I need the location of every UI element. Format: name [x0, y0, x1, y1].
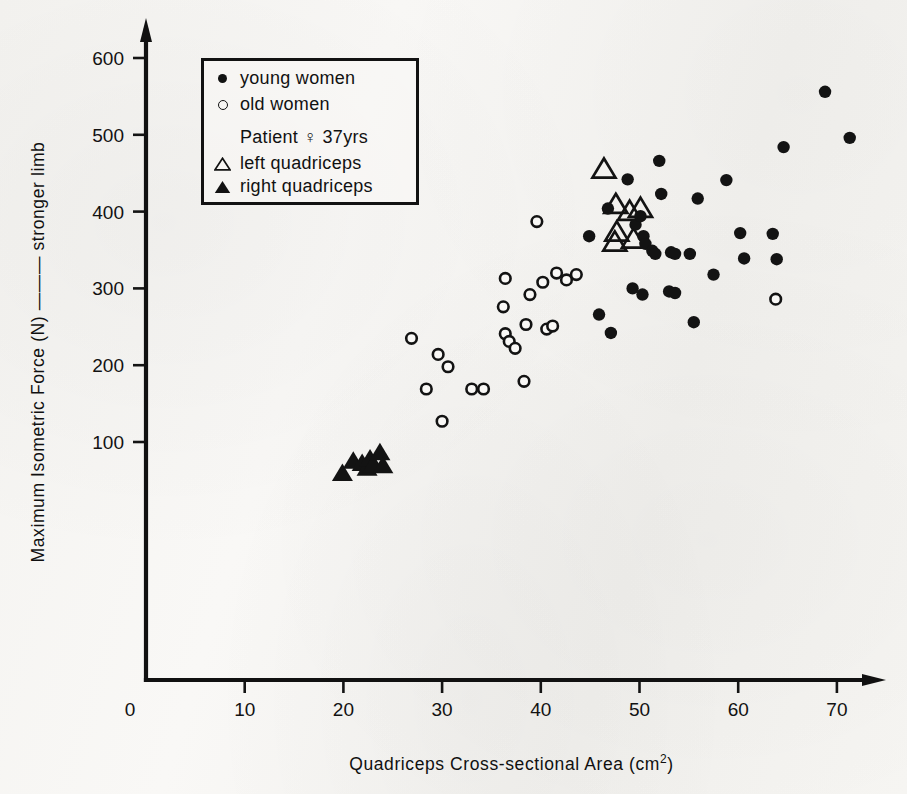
x-tick-label: 70: [826, 699, 847, 720]
legend-item-right-quadriceps: right quadriceps: [214, 176, 373, 197]
x-tick-label: 10: [234, 699, 255, 720]
y-tick-label: 200: [92, 355, 124, 376]
x-tick-label: 60: [728, 699, 749, 720]
data-point-young-women: [669, 287, 681, 299]
data-point-old-women: [500, 273, 511, 284]
legend-patient-heading: Patient ♀ 37yrs: [240, 127, 368, 148]
data-point-young-women: [720, 174, 732, 186]
data-point-right-quadriceps: [369, 443, 390, 461]
data-point-young-women: [819, 86, 831, 98]
data-point-old-women: [571, 269, 582, 280]
data-point-old-women: [537, 277, 548, 288]
data-point-young-women: [621, 173, 633, 185]
x-tick-label: 20: [333, 699, 354, 720]
x-axis-title: Quadriceps Cross-sectional Area (cm2): [349, 752, 674, 774]
data-point-young-women: [593, 308, 605, 320]
open-circle-icon: [214, 100, 240, 110]
y-tick-label: 500: [92, 125, 124, 146]
filled-circle-icon: [214, 74, 240, 83]
scatter-plot-figure: 010203040506070100200300400500600 Quadri…: [0, 0, 907, 794]
legend-patient-heading-text: Patient ♀ 37yrs: [240, 127, 368, 148]
data-point-young-women: [669, 248, 681, 260]
data-point-old-women: [466, 384, 477, 395]
data-point-young-women: [636, 288, 648, 300]
data-point-young-women: [634, 210, 646, 222]
data-point-old-women: [521, 319, 532, 330]
data-point-young-women: [649, 248, 661, 260]
legend-label-young-women: young women: [240, 68, 355, 89]
legend: young women old women Patient ♀ 37yrs le…: [201, 58, 419, 205]
data-point-old-women: [421, 384, 432, 395]
data-point-old-women: [443, 361, 454, 372]
data-point-old-women: [525, 289, 536, 300]
data-point-old-women: [519, 376, 530, 387]
data-point-young-women: [770, 253, 782, 265]
y-tick-label: 300: [92, 278, 124, 299]
filled-triangle-icon: [214, 180, 240, 194]
data-point-young-women: [684, 248, 696, 260]
data-point-old-women: [551, 268, 562, 279]
data-point-old-women: [478, 384, 489, 395]
x-tick-label: 0: [125, 699, 136, 720]
data-point-young-women: [653, 155, 665, 167]
data-point-young-women: [738, 252, 750, 264]
data-point-young-women: [707, 268, 719, 280]
legend-item-old-women: old women: [214, 94, 330, 115]
data-point-old-women: [547, 321, 558, 332]
legend-label-old-women: old women: [240, 94, 330, 115]
data-point-left-quadriceps: [605, 221, 628, 240]
y-axis-title: Maximum Isometric Force (N) ——— stronger…: [28, 142, 48, 563]
data-point-old-women: [498, 302, 509, 313]
data-point-old-women: [406, 333, 417, 344]
data-point-young-women: [777, 141, 789, 153]
plot-canvas: 010203040506070100200300400500600 Quadri…: [0, 0, 907, 794]
legend-label-right-quadriceps: right quadriceps: [240, 176, 373, 197]
data-point-old-women: [770, 294, 781, 305]
legend-item-left-quadriceps: left quadriceps: [214, 153, 362, 174]
data-point-old-women: [532, 216, 543, 227]
data-point-young-women: [602, 202, 614, 214]
y-tick-label: 100: [92, 432, 124, 453]
data-point-young-women: [583, 230, 595, 242]
legend-label-left-quadriceps: left quadriceps: [240, 153, 362, 174]
y-tick-label: 600: [92, 48, 124, 69]
data-point-young-women: [767, 228, 779, 240]
data-point-old-women: [510, 343, 521, 354]
data-point-young-women: [655, 188, 667, 200]
data-point-young-women: [605, 327, 617, 339]
x-axis-arrow: [862, 674, 886, 686]
x-tick-label: 50: [629, 699, 650, 720]
open-triangle-icon: [214, 157, 240, 171]
data-point-young-women: [688, 316, 700, 328]
y-tick-label: 400: [92, 202, 124, 223]
data-point-old-women: [437, 416, 448, 427]
data-point-young-women: [734, 227, 746, 239]
data-point-young-women: [692, 192, 704, 204]
y-axis-arrow: [140, 18, 152, 42]
data-point-left-quadriceps: [592, 158, 615, 177]
data-point-old-women: [433, 349, 444, 360]
x-tick-label: 40: [530, 699, 551, 720]
data-point-young-women: [844, 132, 856, 144]
legend-item-young-women: young women: [214, 68, 355, 89]
x-tick-label: 30: [432, 699, 453, 720]
